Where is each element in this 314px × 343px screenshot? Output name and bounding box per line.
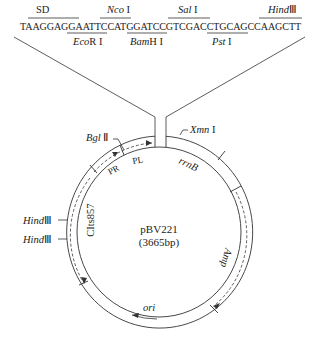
hind2-label: HindⅢ: [22, 234, 52, 245]
plasmid-name: pBV221: [140, 223, 177, 235]
pl-label: PL: [132, 154, 144, 166]
plasmid-map: SD Nco I Sal I HindⅢ TAAGGAGGAATTCCATGGA…: [0, 0, 314, 343]
rrnb-label: rrnB: [177, 155, 200, 174]
sd-label: SD: [36, 4, 50, 15]
insert-site: [155, 136, 166, 147]
plasmid-size: (3665bp): [139, 236, 180, 249]
amp-start-divider: [230, 186, 241, 192]
ecor-label: EcoR I: [72, 36, 103, 47]
ori-label: ori: [143, 302, 155, 313]
nco-label: Nco I: [106, 4, 131, 15]
rrnb-end-divider: [218, 151, 225, 160]
bglII-label: Bgl Ⅱ: [86, 132, 108, 143]
pst-label: Pst I: [211, 36, 232, 47]
xmnI-label: Xmn I: [189, 124, 216, 135]
hind1-label: HindⅢ: [22, 215, 52, 226]
mcs-sequence-block: SD Nco I Sal I HindⅢ TAAGGAGGAATTCCATGGA…: [20, 4, 302, 47]
bamh-label: BamH I: [130, 36, 163, 47]
expansion-lines: [14, 37, 305, 136]
clts857-label: CIts857: [85, 203, 96, 236]
sal-label: Sal I: [178, 4, 198, 15]
pr-arrowhead: [112, 152, 118, 157]
hind-label-top: HindⅢ: [267, 4, 297, 15]
dna-sequence: TAAGGAGGAATTCCATGGATCCGTCGACCTGCAGCCAAGC…: [20, 21, 302, 32]
promoter-arrowhead: [146, 140, 152, 146]
amp-label: Amp: [219, 246, 235, 268]
xmnI-pointer: [180, 130, 188, 135]
